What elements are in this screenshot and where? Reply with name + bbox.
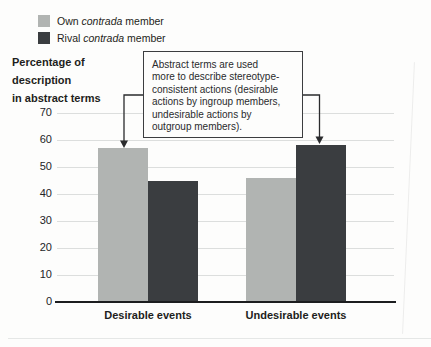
bar-chart-figure: Own contrada member Rival contrada membe… [0, 0, 431, 347]
y-tick-label-50: 50 [22, 160, 52, 172]
gridline-60 [57, 140, 394, 141]
annotation-text-line: undesirable actions by [152, 109, 294, 121]
page-bottom-rule [8, 338, 431, 339]
bar-rival-undesirable [296, 145, 346, 302]
category-label-undesirable: Undesirable events [216, 309, 376, 321]
y-tick-label-30: 30 [22, 214, 52, 226]
y-tick-label-20: 20 [22, 241, 52, 253]
y-tick-label-40: 40 [22, 187, 52, 199]
bar-rival-desirable [148, 181, 198, 303]
annotation-text-line: outgroup members). [152, 121, 294, 133]
bar-own-undesirable [246, 178, 296, 302]
annotation-text-line: consistent actions (desirable [152, 84, 294, 96]
y-tick-label-10: 10 [22, 268, 52, 280]
bar-own-desirable [98, 148, 148, 302]
annotation-text-line: actions by ingroup members, [152, 96, 294, 108]
annotation-text-line: more to describe stereotype- [152, 71, 294, 83]
x-axis-line [55, 301, 396, 303]
annotation-box: Abstract terms are used more to describe… [143, 51, 303, 138]
y-tick-label-0: 0 [22, 295, 52, 307]
y-tick-label-70: 70 [22, 106, 52, 118]
category-label-desirable: Desirable events [68, 309, 228, 321]
y-tick-label-60: 60 [22, 133, 52, 145]
annotation-text-line: Abstract terms are used [152, 59, 294, 71]
